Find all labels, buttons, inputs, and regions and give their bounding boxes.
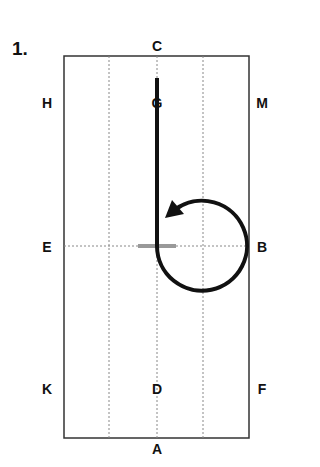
marker-c: C	[152, 39, 162, 53]
marker-b: B	[257, 240, 267, 254]
marker-d: D	[152, 382, 162, 396]
marker-e: E	[42, 240, 51, 254]
marker-k: K	[42, 382, 52, 396]
marker-m: M	[256, 96, 268, 110]
marker-f: F	[258, 382, 267, 396]
marker-h: H	[42, 96, 52, 110]
marker-a: A	[152, 442, 162, 456]
arrow-head-icon	[165, 200, 184, 218]
marker-g: G	[152, 96, 163, 110]
